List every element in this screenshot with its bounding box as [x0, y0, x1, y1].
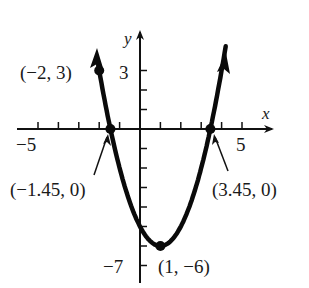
point-label-neg2-3: (−2, 3)	[20, 63, 72, 82]
y-axis-label: y	[124, 30, 132, 47]
data-point	[155, 241, 165, 251]
x-tick-label-neg5: −5	[16, 135, 36, 154]
marked-points	[94, 66, 215, 252]
y-tick-label-neg7: −7	[103, 257, 123, 276]
parabola-chart	[0, 0, 309, 288]
point-label-1-neg6: (1, −6)	[158, 257, 210, 276]
point-label-neg1.45-0: (−1.45, 0)	[10, 180, 86, 199]
data-point	[205, 124, 215, 134]
x-axis-label: x	[262, 105, 270, 122]
parabola-curve	[98, 46, 226, 246]
y-tick-label-3: 3	[119, 63, 129, 82]
point-label-3.45-0: (3.45, 0)	[212, 180, 277, 199]
data-point	[94, 66, 104, 76]
data-point	[105, 124, 115, 134]
x-tick-label-5: 5	[236, 135, 246, 154]
